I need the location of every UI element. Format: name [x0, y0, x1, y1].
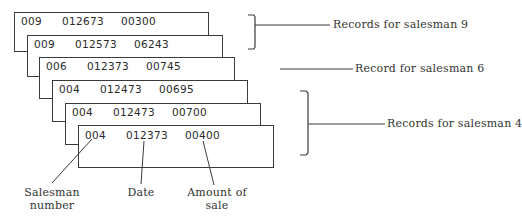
label-amount-line2: sale [185, 199, 249, 212]
pointer-line-salesman-number [52, 139, 92, 183]
bracket-salesman-9-icon [248, 15, 255, 49]
pointer-line-amount [203, 141, 214, 185]
label-amount-line1: Amount of [185, 186, 249, 199]
label-amount-of-sale: Amount of sale [185, 186, 249, 212]
bracket-salesman-4-icon [300, 91, 308, 155]
label-salesman-number-line1: Salesman [18, 186, 86, 199]
label-records-salesman-9: Records for salesman 9 [333, 18, 468, 31]
label-records-salesman-4: Records for salesman 4 [387, 117, 522, 130]
label-date: Date [118, 186, 164, 199]
label-date-text: Date [118, 186, 164, 199]
pointer-line-date [141, 141, 144, 184]
label-salesman-number-line2: number [18, 199, 86, 212]
label-salesman-number: Salesman number [18, 186, 86, 212]
label-record-salesman-6: Record for salesman 6 [355, 62, 484, 75]
